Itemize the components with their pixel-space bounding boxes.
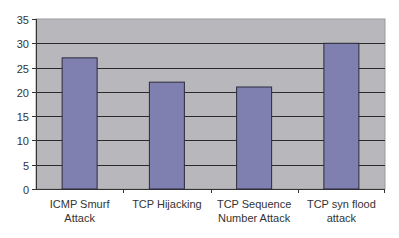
x-category-label: TCP Hijacking <box>132 198 202 210</box>
x-category-label: TCP syn flood <box>307 198 376 210</box>
y-tick-label: 15 <box>17 111 29 123</box>
chart-canvas: 05101520253035ICMP SmurfAttackTCP Hijack… <box>0 0 399 238</box>
bar <box>62 58 97 189</box>
y-tick-label: 5 <box>23 160 29 172</box>
bar <box>149 82 184 189</box>
x-category-label: attack <box>327 212 357 224</box>
x-category-label: Number Attack <box>218 212 291 224</box>
y-tick-label: 30 <box>17 38 29 50</box>
bar <box>324 43 359 189</box>
x-category-label: ICMP Smurf <box>50 198 111 210</box>
y-tick-label: 25 <box>17 63 29 75</box>
y-tick-label: 10 <box>17 135 29 147</box>
y-tick-label: 35 <box>17 14 29 26</box>
bar-chart: 05101520253035ICMP SmurfAttackTCP Hijack… <box>0 0 399 238</box>
x-category-label: TCP Sequence <box>217 198 291 210</box>
bar <box>237 87 272 189</box>
y-tick-label: 20 <box>17 87 29 99</box>
x-category-label: Attack <box>64 212 95 224</box>
y-tick-label: 0 <box>23 184 29 196</box>
